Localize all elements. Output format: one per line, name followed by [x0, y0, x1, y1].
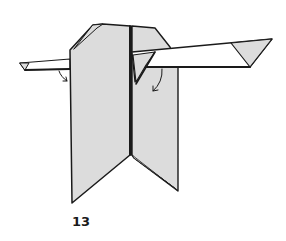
step-number-label: 13 [72, 214, 90, 229]
left-fold-arrow [59, 71, 67, 81]
left-panel [70, 24, 132, 203]
left-wing [20, 59, 70, 70]
origami-diagram [0, 0, 286, 241]
